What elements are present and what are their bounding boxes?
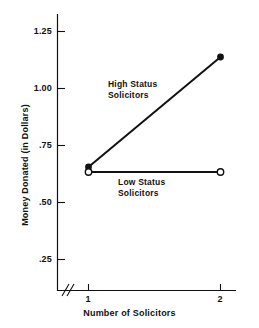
y-tick-label-1: 1.25 [20, 26, 52, 36]
x-tick-label-2: 2 [217, 294, 222, 304]
data-point-low-status-1 [85, 169, 91, 175]
x-axis-title: Number of Solicitors [0, 308, 259, 318]
y-axis-ticks [58, 32, 66, 260]
data-point-high-status-2 [217, 54, 224, 61]
plot-area [0, 0, 259, 328]
x-tick-label-1: 1 [85, 294, 90, 304]
y-axis-title: Money Donated (in Dollars) [20, 80, 30, 250]
y-tick-label-5: .25 [20, 254, 52, 264]
series-line-high-status [89, 57, 221, 167]
chart-container: 1.25 1.00 .75 .50 .25 1 2 Money Donated … [0, 0, 259, 328]
series-label-low-status: Low Status Solicitors [118, 177, 165, 199]
series-label-high-status: High Status Solicitors [108, 79, 157, 101]
data-point-low-status-2 [217, 169, 223, 175]
